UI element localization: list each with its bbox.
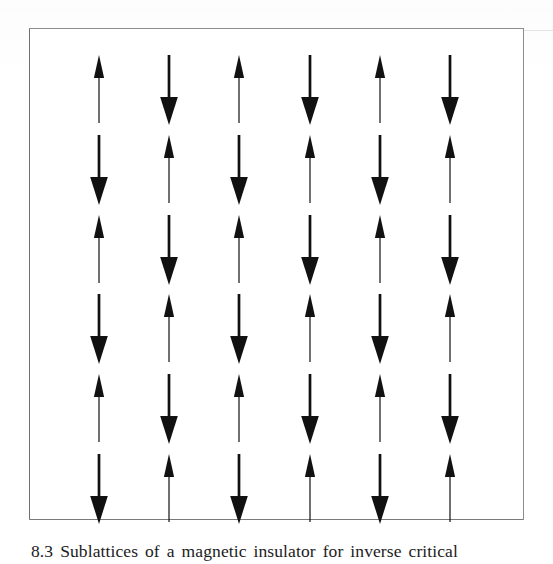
spin-arrow-up-r5c1 xyxy=(69,370,129,448)
spin-arrow-up-r3c1 xyxy=(69,211,129,289)
spin-arrow-up-r4c4 xyxy=(280,290,340,368)
spin-arrow-down-r4c3 xyxy=(209,290,269,368)
scan-artifact-line xyxy=(524,30,553,31)
caption-clip-region: 8.3 Sublattices of a magnetic insulator … xyxy=(0,540,553,564)
spin-arrow-down-r5c6 xyxy=(420,370,480,448)
spin-arrow-up-r3c5 xyxy=(350,211,410,289)
spin-arrow-down-r2c3 xyxy=(209,131,269,209)
figure-page: 8.3 Sublattices of a magnetic insulator … xyxy=(0,0,553,564)
spin-arrow-down-r6c3 xyxy=(209,450,269,528)
spin-arrow-up-r1c1 xyxy=(69,51,129,129)
spin-arrow-down-r3c6 xyxy=(420,211,480,289)
spin-arrow-up-r5c5 xyxy=(350,370,410,448)
spin-arrow-down-r4c5 xyxy=(350,290,410,368)
spin-arrow-up-r4c6 xyxy=(420,290,480,368)
spin-arrow-down-r2c1 xyxy=(69,131,129,209)
spin-arrow-up-r3c3 xyxy=(209,211,269,289)
spin-arrow-up-r2c6 xyxy=(420,131,480,209)
spin-arrow-down-r5c2 xyxy=(139,370,199,448)
spin-arrow-down-r3c4 xyxy=(280,211,340,289)
figure-caption: 8.3 Sublattices of a magnetic insulator … xyxy=(31,540,541,562)
spin-arrow-down-r4c1 xyxy=(69,290,129,368)
spin-arrow-down-r6c1 xyxy=(69,450,129,528)
spin-arrow-up-r1c3 xyxy=(209,51,269,129)
spin-arrow-up-r6c2 xyxy=(139,450,199,528)
spin-arrow-up-r5c3 xyxy=(209,370,269,448)
spin-arrow-up-r2c2 xyxy=(139,131,199,209)
spin-arrow-down-r1c2 xyxy=(139,51,199,129)
spin-arrow-down-r3c2 xyxy=(139,211,199,289)
spin-lattice-grid xyxy=(29,28,524,520)
spin-arrow-up-r6c6 xyxy=(420,450,480,528)
spin-arrow-up-r2c4 xyxy=(280,131,340,209)
spin-arrow-up-r4c2 xyxy=(139,290,199,368)
spin-arrow-down-r6c5 xyxy=(350,450,410,528)
spin-arrow-down-r1c6 xyxy=(420,51,480,129)
spin-arrow-up-r1c5 xyxy=(350,51,410,129)
spin-arrow-down-r1c4 xyxy=(280,51,340,129)
spin-arrow-up-r6c4 xyxy=(280,450,340,528)
spin-arrow-down-r2c5 xyxy=(350,131,410,209)
spin-arrow-down-r5c4 xyxy=(280,370,340,448)
